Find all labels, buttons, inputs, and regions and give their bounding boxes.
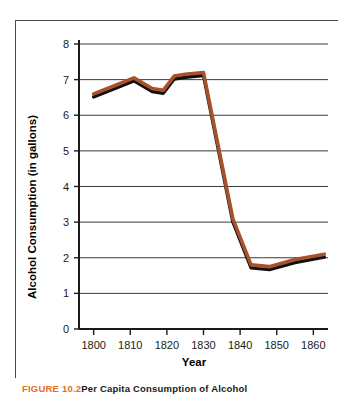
x-tick-label-1800: 1800 [81,339,105,351]
figure-caption-label: FIGURE 10.2 [22,383,81,394]
figure-caption-text: Per Capita Consumption of Alcohol [81,383,247,394]
y-tick-label-7: 7 [63,74,69,86]
x-tick-label-1840: 1840 [228,339,252,351]
x-tick-label-1820: 1820 [155,339,179,351]
y-tick-label-4: 4 [63,181,69,193]
x-axis-title: Year [182,356,207,368]
y-axis-title: Alcohol Consumption (in gallons) [26,115,38,299]
y-tick-label-2: 2 [63,252,69,264]
x-tick-label-1850: 1850 [264,339,288,351]
y-tick-label-3: 3 [63,216,69,228]
x-tick-label-1810: 1810 [118,339,142,351]
y-tick-label-8: 8 [63,38,69,50]
x-tick-label-1860: 1860 [301,339,325,351]
figure-frame: 012345678 1800181018201830184018501860 A… [15,20,338,378]
y-tick-label-5: 5 [63,145,69,157]
y-tick-label-6: 6 [63,109,69,121]
y-tick-label-0: 0 [63,323,69,335]
line-chart: 012345678 1800181018201830184018501860 A… [16,21,339,379]
y-tick-label-1: 1 [63,287,69,299]
x-tick-label-1830: 1830 [191,339,215,351]
figure-caption: FIGURE 10.2Per Capita Consumption of Alc… [22,383,342,394]
chart-svg: 012345678 1800181018201830184018501860 A… [16,21,339,379]
